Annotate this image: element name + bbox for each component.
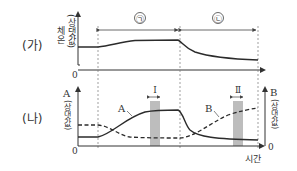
- series-b-pointer: [214, 111, 219, 117]
- series-a-curve: [78, 110, 258, 140]
- na-zero-left: 0: [72, 146, 78, 156]
- series-b-label: B: [205, 103, 212, 114]
- body-temperature-curve: [78, 40, 258, 60]
- na-left-axis-label-main: A: [62, 88, 71, 99]
- interval-1-symbol: ㉠: [136, 15, 144, 24]
- interval-2-symbol: ㉡: [214, 15, 222, 24]
- na-right-axis-label-sub: (상댓값): [270, 99, 279, 129]
- panel-na-label: (나): [22, 112, 42, 126]
- na-right-axis-label-main: B: [270, 87, 277, 98]
- na-x-axis-label: 시간: [245, 154, 261, 164]
- series-a-pointer: [127, 111, 132, 116]
- period-1-shade: [150, 101, 160, 146]
- ga-y-axis-label-main: 체온: [55, 26, 65, 44]
- panel-ga-label: (가): [22, 39, 42, 53]
- period-2-label: Ⅱ: [235, 85, 241, 95]
- panel-ga: (가) 체온 (상댓값) 0 ㉠ ㉡: [22, 13, 263, 151]
- na-left-axis-label-sub: (상댓값): [63, 100, 72, 130]
- period-1-label: Ⅰ: [153, 85, 157, 95]
- series-b-curve: [78, 108, 258, 138]
- panel-na: (나) A (상댓값) B (상댓값) Ⅰ Ⅱ 0 0 시간 A B: [22, 85, 279, 164]
- na-zero-right: 0: [268, 142, 274, 152]
- ga-zero: 0: [72, 70, 78, 80]
- ga-y-axis-label-sub: (상댓값): [66, 14, 76, 48]
- diagram-canvas: (가) 체온 (상댓값) 0 ㉠ ㉡ (나) A (상댓값) B (상댓값): [0, 0, 297, 171]
- series-a-label: A: [117, 103, 126, 114]
